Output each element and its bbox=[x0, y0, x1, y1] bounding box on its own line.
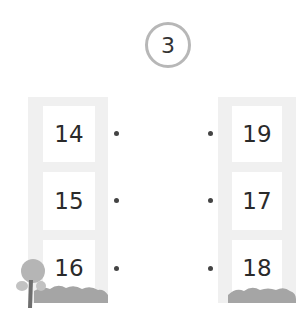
right-connect-dot-1[interactable] bbox=[208, 131, 213, 136]
left-number-box-1[interactable]: 14 bbox=[43, 106, 95, 162]
left-number-1: 14 bbox=[54, 121, 83, 147]
question-number-badge: 3 bbox=[145, 22, 191, 68]
left-connect-dot-1[interactable] bbox=[114, 131, 119, 136]
left-connect-dot-3[interactable] bbox=[114, 266, 119, 271]
right-connect-dot-2[interactable] bbox=[208, 198, 213, 203]
left-number-box-2[interactable]: 15 bbox=[43, 172, 95, 230]
right-number-2: 17 bbox=[242, 188, 271, 214]
right-number-box-1[interactable]: 19 bbox=[232, 106, 282, 162]
right-number-box-2[interactable]: 17 bbox=[232, 172, 282, 230]
left-connect-dot-2[interactable] bbox=[114, 198, 119, 203]
tree-icon bbox=[14, 258, 48, 308]
bush-ground-icon bbox=[218, 277, 296, 303]
left-number-2: 15 bbox=[54, 188, 83, 214]
question-number: 3 bbox=[161, 33, 175, 58]
right-number-1: 19 bbox=[242, 121, 271, 147]
right-column-panel: 19 17 18 bbox=[218, 97, 296, 303]
right-connect-dot-3[interactable] bbox=[208, 266, 213, 271]
